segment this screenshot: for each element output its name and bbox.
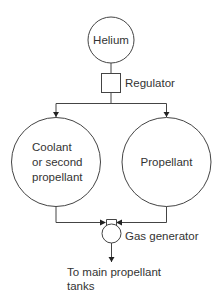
gas-generator-label: Gas generator bbox=[125, 230, 199, 242]
regulator-node: Regulator bbox=[102, 74, 176, 93]
output-node: To main propellant tanks bbox=[67, 266, 162, 292]
arrow-to-coolant bbox=[53, 112, 59, 117]
coolant-label-line-1: Coolant bbox=[32, 141, 72, 153]
gas-generator-node: Gas generator bbox=[102, 220, 199, 244]
helium-node: Helium bbox=[88, 17, 134, 63]
coolant-tank-node: Coolant or second propellant bbox=[12, 118, 101, 207]
edge-coolant-to-generator bbox=[56, 207, 105, 223]
coolant-label-line-2: or second bbox=[32, 156, 83, 168]
coolant-label-line-3: propellant bbox=[32, 171, 83, 183]
regulator-box bbox=[102, 74, 121, 93]
propellant-tank-node: Propellant bbox=[122, 118, 211, 207]
arrow-coolant-to-generator bbox=[100, 220, 106, 226]
propellant-label: Propellant bbox=[141, 156, 194, 168]
arrow-to-propellant bbox=[164, 112, 170, 117]
helium-label: Helium bbox=[93, 34, 129, 46]
regulator-label: Regulator bbox=[125, 77, 175, 89]
output-label-line-2: tanks bbox=[67, 280, 95, 292]
pressurization-diagram: Helium Regulator Coolant or second prope… bbox=[0, 0, 220, 303]
output-label-line-1: To main propellant bbox=[67, 266, 162, 278]
arrow-to-output bbox=[109, 257, 115, 262]
edge-propellant-to-generator bbox=[117, 207, 167, 223]
gas-generator-chamber bbox=[102, 224, 121, 243]
